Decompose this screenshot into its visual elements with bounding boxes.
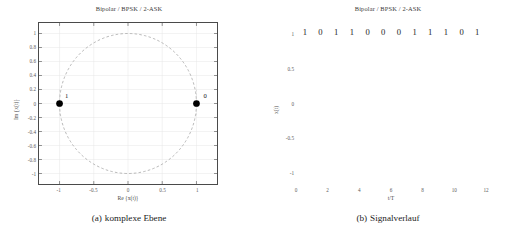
caption-text-a: komplexe Ebene: [105, 213, 166, 223]
bit-6: 0: [391, 28, 407, 37]
y-tick-b: -1: [263, 170, 294, 176]
y-tick-a: -0.6: [4, 143, 36, 149]
bit-5: 0: [375, 28, 391, 37]
y-axis-label-a: Im {x(t)}: [13, 98, 19, 119]
caption-b: (b)Signalverlauf: [259, 213, 517, 223]
bit-11: 1: [469, 28, 485, 37]
plot-title-a: Bipolar / BPSK / 2-ASK: [0, 5, 258, 12]
y-tick-a: -0.2: [4, 115, 36, 121]
y-tick-a: 0.2: [4, 86, 36, 92]
x-tick-b: 12: [483, 187, 488, 193]
bit-1: 0: [313, 28, 329, 37]
y-tick-a: 0.4: [4, 72, 36, 78]
bit-8: 1: [422, 28, 438, 37]
y-tick-a: -1: [4, 171, 36, 177]
y-tick-a: 0: [4, 101, 36, 107]
y-tick-b: 1: [263, 31, 294, 37]
bit-10: 0: [454, 28, 470, 37]
y-tick-a: 0.8: [4, 44, 36, 50]
x-tick-a: -0.5: [89, 187, 97, 193]
caption-tag-a: (a): [92, 213, 102, 223]
bit-3: 1: [344, 28, 360, 37]
x-tick-b: 0: [295, 187, 298, 193]
x-tick-b: 8: [421, 187, 424, 193]
x-tick-a: 1: [196, 187, 199, 193]
bit-9: 1: [438, 28, 454, 37]
y-tick-b: -0.5: [263, 135, 294, 141]
bit-4: 0: [360, 28, 376, 37]
x-tick-a: 0: [127, 187, 130, 193]
x-tick-b: 6: [390, 187, 393, 193]
y-tick-a: 1: [4, 30, 36, 36]
y-tick-b: 0.5: [263, 66, 294, 72]
bit-2: 1: [328, 28, 344, 37]
caption-text-b: Signalverlauf: [370, 213, 420, 223]
subfigure-waveform: Bipolar / BPSK / 2-ASK 101100011101 10.5…: [259, 0, 517, 229]
caption-tag-b: (b): [356, 213, 367, 223]
point-label-1: 1: [65, 91, 68, 98]
bit-sequence-row: 101100011101: [297, 25, 485, 39]
y-axis-label-b: x(t): [273, 105, 279, 113]
y-tick-a: -0.4: [4, 129, 36, 135]
plot-title-b: Bipolar / BPSK / 2-ASK: [259, 5, 517, 12]
x-tick-a: 0.5: [159, 187, 165, 193]
caption-a: (a)komplexe Ebene: [0, 213, 258, 223]
x-tick-b: 10: [452, 187, 457, 193]
subfigure-complex-plane: Bipolar / BPSK / 2-ASK 10.80.60.40.20-0.…: [0, 0, 258, 229]
y-tick-a: -0.8: [4, 157, 36, 163]
x-tick-a: -1: [57, 187, 61, 193]
x-axis-label-b: t/T: [388, 195, 395, 201]
figure: Bipolar / BPSK / 2-ASK 10.80.60.40.20-0.…: [0, 0, 517, 229]
y-tick-a: 0.6: [4, 58, 36, 64]
point-label-0: 0: [204, 91, 207, 98]
gridlines: [39, 23, 217, 184]
bit-0: 1: [297, 28, 313, 37]
x-tick-b: 2: [326, 187, 329, 193]
complex-plane-svg: [39, 23, 217, 184]
x-tick-b: 4: [358, 187, 361, 193]
plot-area-complex-plane: [38, 22, 218, 185]
bit-7: 1: [407, 28, 423, 37]
x-axis-label-a: Re {x(t)}: [117, 195, 138, 201]
